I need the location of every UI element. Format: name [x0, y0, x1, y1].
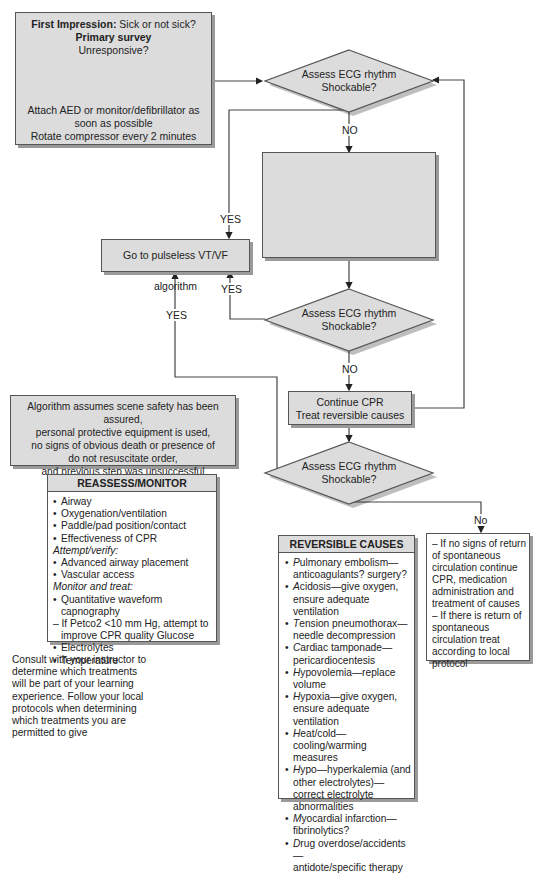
empty-step-box — [262, 152, 436, 258]
edge-label-yes-3: YES — [165, 309, 188, 321]
decision-1-text: Assess ECG rhythm Shockable? — [289, 68, 409, 94]
list-item: Drug overdose/accidents—antidote/specifi… — [285, 838, 412, 874]
list-item: Airway — [53, 496, 213, 508]
no-rosc-text: – If no signs of return of spontaneous c… — [432, 538, 526, 610]
first-impression-line: First Impression: Sick or not sick? — [16, 18, 211, 31]
edge-label-yes-2: YES — [220, 283, 243, 295]
list-item: Pulmonary embolism—anticoagulants? surge… — [285, 557, 412, 581]
reversible-causes-header: REVERSIBLE CAUSES — [279, 536, 414, 553]
edge-label-no-3: No — [473, 514, 488, 526]
reversible-causes-box: REVERSIBLE CAUSES Pulmonary embolism—ant… — [278, 535, 415, 799]
reversible-causes-list: Pulmonary embolism—anticoagulants? surge… — [279, 553, 414, 874]
rosc-text: – If there is return of spontaneous circ… — [432, 610, 526, 670]
edge-label-no-2: NO — [341, 363, 359, 375]
reassess-monitor-header: REASSESS/MONITOR — [48, 475, 216, 492]
rotate-compressor-line: Rotate compressor every 2 minutes — [16, 130, 211, 143]
outcome-box: – If no signs of return of spontaneous c… — [426, 533, 530, 661]
list-item: Hypo—hyperkalemia (andother electrolytes… — [285, 764, 412, 813]
list-item: Cardiac tamponade—pericardiocentesis — [285, 642, 412, 666]
list-item: Electrolytes — [53, 642, 213, 654]
attach-aed-line: Attach AED or monitor/defibrillator as — [16, 104, 211, 117]
list-heading: Monitor and treat: — [53, 581, 213, 593]
decision-3-text: Assess ECG rhythm Shockable? — [289, 460, 409, 486]
list-item: Vascular access — [53, 569, 213, 581]
list-item: Advanced airway placement — [53, 557, 213, 569]
unresponsive-label: Unresponsive? — [16, 44, 211, 57]
list-item: Oxygenation/ventilation — [53, 508, 213, 520]
continue-cpr-box: Continue CPR Treat reversible causes — [288, 391, 412, 425]
first-impression-box: First Impression: Sick or not sick? Prim… — [15, 12, 212, 145]
list-item: Acidosis—give oxygen,ensure adequate ven… — [285, 581, 412, 618]
list-item: Quantitative waveform capnography — [53, 594, 213, 618]
pulseless-vtvf-box[interactable]: Go to pulseless VT/VF algorithm — [101, 239, 250, 272]
list-item: Myocardial infarction—fibrinolytics? — [285, 813, 412, 837]
list-heading: Attempt/verify: — [53, 545, 213, 557]
reassess-list: Airway Oxygenation/ventilation Paddle/pa… — [48, 492, 216, 667]
list-item: Tension pneumothorax—needle decompressio… — [285, 618, 412, 642]
list-item: Hypoxia—give oxygen,ensure adequate vent… — [285, 691, 412, 728]
reassess-monitor-box: REASSESS/MONITOR Airway Oxygenation/vent… — [47, 474, 217, 642]
list-item: Paddle/pad position/contact — [53, 520, 213, 532]
assumption-box: Algorithm assumes scene safety has been … — [10, 395, 236, 466]
attach-aed-line-2: soon as possible — [16, 117, 211, 130]
list-item: improve CPR quality Glucose — [53, 630, 213, 642]
list-item: Hypovolemia—replacevolume — [285, 667, 412, 691]
primary-survey-label: Primary survey — [16, 31, 211, 44]
list-item: Effectiveness of CPR — [53, 533, 213, 545]
edge-label-yes-1: YES — [219, 213, 242, 225]
list-item: – If Petco2 <10 mm Hg, attempt to — [53, 618, 213, 630]
decision-2-text: Assess ECG rhythm Shockable? — [289, 307, 409, 333]
edge-label-no-1: NO — [341, 124, 359, 136]
consult-note: Consult with your instructor to determin… — [12, 654, 152, 739]
list-item: Heat/cold—cooling/warmingmeasures — [285, 728, 412, 765]
